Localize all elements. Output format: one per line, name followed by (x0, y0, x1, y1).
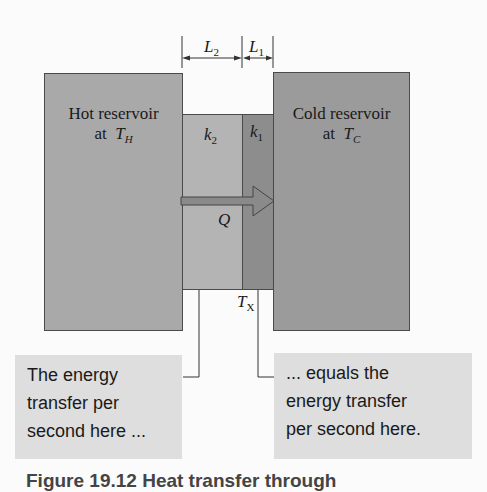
note-right-line: energy transfer (286, 387, 472, 415)
arrowhead-icon (266, 56, 273, 61)
arrowhead-icon (182, 56, 190, 61)
heat-flow-label: Q (218, 210, 230, 230)
l2-label: L2 (204, 37, 219, 58)
figure-caption: Figure 19.12 Heat transfer through (26, 470, 336, 492)
note-left-line: transfer per (27, 389, 182, 417)
l1-label: L1 (249, 37, 264, 58)
leader-line-left (183, 290, 199, 377)
note-left: The energy transfer per second here ... (15, 355, 182, 459)
leader-line-right (258, 290, 275, 377)
note-right-line: per second here. (286, 415, 472, 443)
note-left-line: The energy (27, 361, 182, 389)
interface-temperature-label: TX (237, 292, 254, 313)
note-left-line: second here ... (27, 417, 182, 445)
note-right: ... equals the energy transfer per secon… (274, 353, 472, 459)
arrowhead-icon (234, 56, 242, 61)
note-right-line: ... equals the (286, 359, 472, 387)
